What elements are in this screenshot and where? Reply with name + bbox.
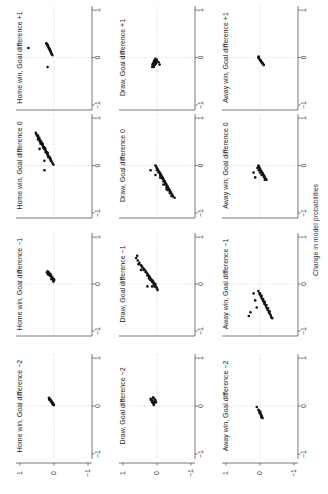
y-tick-label: 0 xyxy=(94,282,101,286)
x-tick-label: 0 xyxy=(153,471,160,475)
y-tick-label: −1 xyxy=(197,327,204,335)
data-point xyxy=(249,311,252,314)
panel: 10−110−1Home win, Goal difference −2 xyxy=(16,354,101,477)
data-point xyxy=(248,315,251,318)
data-point xyxy=(155,401,158,404)
data-point xyxy=(43,169,46,172)
data-point xyxy=(257,169,260,172)
data-point xyxy=(259,411,262,414)
panel-title: Home win, Goal difference −1 xyxy=(16,238,23,330)
panel-title: Home win, Goal difference +1 xyxy=(16,11,23,103)
y-tick-label: 1 xyxy=(94,116,101,120)
y-tick-label: −1 xyxy=(300,450,307,458)
data-point xyxy=(51,53,54,56)
data-point xyxy=(47,273,50,276)
data-point xyxy=(50,278,53,281)
data-point xyxy=(43,160,46,163)
panel-title: Draw, Goal difference 0 xyxy=(119,129,126,202)
data-point xyxy=(271,317,274,320)
y-tick-label: 0 xyxy=(197,55,204,59)
data-point xyxy=(265,304,268,307)
data-point xyxy=(154,174,157,177)
x-tick-label: −1 xyxy=(187,469,194,477)
data-point xyxy=(165,188,168,191)
data-point xyxy=(153,285,156,288)
data-point xyxy=(260,416,263,419)
data-point xyxy=(154,60,157,63)
data-point xyxy=(262,298,265,301)
data-point xyxy=(146,285,149,288)
data-point xyxy=(135,257,138,260)
panel-grid: 10−1Home win, Goal difference +110−1Home… xyxy=(16,6,307,477)
panel-title: Draw, Goal difference +1 xyxy=(119,19,126,96)
data-point xyxy=(39,141,42,144)
panel: 10−110−1Draw, Goal difference −2 xyxy=(119,354,204,477)
y-tick-label: 1 xyxy=(300,356,307,360)
data-point xyxy=(259,292,262,295)
y-tick-label: −1 xyxy=(94,327,101,335)
data-point xyxy=(140,265,143,268)
y-tick-label: 0 xyxy=(94,404,101,408)
data-point xyxy=(162,183,165,186)
data-point xyxy=(152,396,155,399)
data-point xyxy=(173,197,176,200)
data-point xyxy=(169,192,172,195)
y-tick-label: 1 xyxy=(94,235,101,239)
y-tick-label: −1 xyxy=(94,101,101,109)
y-tick-label: −1 xyxy=(197,450,204,458)
panel-title: Draw, Goal difference −2 xyxy=(119,367,126,444)
data-point xyxy=(170,195,173,198)
data-point xyxy=(263,176,266,179)
data-point xyxy=(38,148,41,151)
data-point xyxy=(254,299,257,302)
y-tick-label: 0 xyxy=(94,55,101,59)
y-tick-label: 1 xyxy=(300,235,307,239)
data-point xyxy=(156,169,159,172)
y-tick-label: 1 xyxy=(94,8,101,12)
panel: 10−1Away win, Goal difference +1 xyxy=(222,6,307,110)
panel: 10−110−1Away win, Goal difference −2 xyxy=(222,354,307,477)
data-point xyxy=(257,290,260,293)
data-point xyxy=(149,169,152,172)
data-point xyxy=(46,271,49,274)
y-tick-label: 0 xyxy=(300,55,307,59)
x-tick-label: 0 xyxy=(256,471,263,475)
x-tick-label: 0 xyxy=(50,471,57,475)
data-point xyxy=(252,292,255,295)
y-tick-label: 0 xyxy=(197,282,204,286)
data-point xyxy=(137,263,140,266)
y-tick-label: −1 xyxy=(300,327,307,335)
x-tick-label: 1 xyxy=(222,471,229,475)
data-point xyxy=(140,269,143,272)
panel: 10−1Draw, Goal difference 0 xyxy=(119,114,204,218)
x-tick-label: −1 xyxy=(290,469,297,477)
panel: 10−1Home win, Goal difference −1 xyxy=(16,233,101,336)
data-point xyxy=(158,63,161,66)
x-tick-label: 1 xyxy=(16,471,23,475)
data-point xyxy=(264,301,267,304)
y-tick-label: 0 xyxy=(300,404,307,408)
panel-title: Away win, Goal difference −2 xyxy=(222,361,230,452)
data-point xyxy=(263,64,266,67)
data-point xyxy=(267,307,270,310)
data-point xyxy=(153,66,156,69)
data-point xyxy=(38,137,41,140)
y-tick-label: 0 xyxy=(197,163,204,167)
y-tick-label: −1 xyxy=(94,209,101,217)
y-tick-label: 1 xyxy=(197,8,204,12)
data-point xyxy=(260,295,263,298)
panel-title: Away win, Goal difference +1 xyxy=(222,12,230,103)
data-point xyxy=(136,255,139,258)
data-point xyxy=(27,47,30,50)
axis-title: Change in model probabilities xyxy=(312,183,320,276)
data-point xyxy=(49,49,52,52)
panel: 10−1Home win, Goal difference +1 xyxy=(16,6,101,110)
data-point xyxy=(137,259,140,262)
data-point xyxy=(46,151,49,154)
panel: 10−1Home win, Goal difference 0 xyxy=(16,114,101,218)
data-point xyxy=(146,274,149,277)
y-tick-label: −1 xyxy=(197,101,204,109)
data-point xyxy=(46,154,49,157)
y-tick-label: 1 xyxy=(300,8,307,12)
data-point xyxy=(256,167,259,170)
